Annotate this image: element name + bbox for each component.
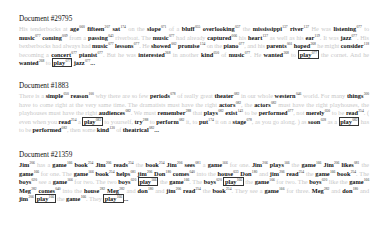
keyword: wanted268 xyxy=(264,51,289,58)
keyword-index: 282 xyxy=(100,187,105,191)
context-text: riverboat. The xyxy=(115,34,151,41)
context-text: His tenderbocks at xyxy=(19,25,68,32)
context-text: into the xyxy=(197,170,216,177)
keyword: western046 xyxy=(275,92,302,99)
keyword-index: 060 xyxy=(79,25,84,29)
keyword-index: 206 xyxy=(28,195,33,199)
keyword: perform082 xyxy=(156,118,184,125)
ellipsis: ... xyxy=(124,195,129,202)
keyword: periods078 xyxy=(150,92,176,99)
keyword: passing043 xyxy=(88,34,114,41)
keyword-index: 082 xyxy=(271,101,276,105)
keyword: jazz077 xyxy=(340,34,357,41)
keyword-index: 137 xyxy=(282,25,287,29)
context-text: as well as his xyxy=(270,34,304,41)
keyword: house033 xyxy=(218,170,239,177)
keyword: actors082 xyxy=(219,101,241,108)
context-text: of a xyxy=(169,25,179,32)
context-text: . He xyxy=(139,42,149,49)
document-title: Document #21359 xyxy=(19,151,369,160)
context-text: the xyxy=(361,161,369,168)
keyword: merely050 xyxy=(306,109,330,116)
keyword-index: 020 xyxy=(322,178,327,182)
context-text: he might xyxy=(317,42,339,49)
keyword: plays166 xyxy=(270,161,290,168)
context-text: to xyxy=(364,25,369,32)
keyword-index: 282 xyxy=(31,187,36,191)
keyword-index: 077 xyxy=(312,51,317,55)
highlighted-keyword: play077 xyxy=(298,50,318,59)
context-text: to xyxy=(150,118,155,125)
context-text: the xyxy=(243,25,251,32)
keyword-index: 166 xyxy=(330,170,335,174)
keyword: age060 xyxy=(70,25,85,32)
keyword-index: 078 xyxy=(170,92,175,96)
keyword-index: 288 xyxy=(143,118,148,122)
keyword: listening077 xyxy=(333,25,361,32)
keyword-index: 020 xyxy=(32,178,37,182)
keyword-index: 166 xyxy=(151,178,156,182)
keyword-index: 082 xyxy=(234,92,239,96)
context-text: his xyxy=(239,34,246,41)
keyword-index: 166 xyxy=(269,178,274,182)
keyword: game166 xyxy=(255,178,275,185)
keyword: read254 xyxy=(59,118,77,125)
context-text: the xyxy=(245,178,253,185)
keyword: captured006 xyxy=(207,34,237,41)
keyword-index: 037 xyxy=(235,25,240,29)
keyword-index: 082 xyxy=(218,109,223,113)
keyword: comes040 xyxy=(173,170,195,177)
keyword: music077 xyxy=(229,51,250,58)
highlighted-keyword: play166 xyxy=(138,177,158,186)
keyword: theater082 xyxy=(214,92,239,99)
context-text: it, to xyxy=(186,118,198,125)
keyword: helps081 xyxy=(116,170,136,177)
keyword-index: 077 xyxy=(169,34,174,38)
context-text: , then some xyxy=(67,126,95,133)
highlighted-keyword: play166 xyxy=(223,177,243,186)
keyword: slope071 xyxy=(147,25,166,32)
context-text: for one. The xyxy=(41,170,72,177)
keyword: kind130 xyxy=(97,126,115,133)
context-text: . They see a xyxy=(231,187,262,194)
keyword: showed002 xyxy=(151,42,177,49)
keyword: game166 xyxy=(52,161,72,168)
keyword-index: 040 xyxy=(55,187,60,191)
keyword: game166 xyxy=(74,170,94,177)
keyword: consider118 xyxy=(341,42,369,49)
keyword-index: 082 xyxy=(352,118,357,122)
keyword: book254 xyxy=(74,161,93,168)
context-text: He was xyxy=(311,25,331,32)
keyword-index: 282 xyxy=(324,187,329,191)
context-text: the xyxy=(306,170,314,177)
context-text: the xyxy=(136,161,144,168)
keyword: jim206 xyxy=(19,195,34,202)
keyword: game166 xyxy=(349,178,369,185)
keyword-index: 166 xyxy=(67,161,72,165)
context-text: see a xyxy=(39,178,51,185)
keyword-index: 046 xyxy=(296,92,301,96)
keyword: plays082 xyxy=(204,109,224,116)
context-text: for three. xyxy=(286,187,309,194)
keyword: overlooking037 xyxy=(203,25,241,32)
context-text: on the xyxy=(128,25,144,32)
keyword-index: 207 xyxy=(105,25,110,29)
keyword-index: 206 xyxy=(106,161,111,165)
context-text: for two. The two xyxy=(74,178,116,185)
keyword: put174 xyxy=(199,118,214,125)
keyword: simple050 xyxy=(46,92,69,99)
keyword-index: 006 xyxy=(232,34,237,38)
keyword-index: 166 xyxy=(222,161,227,165)
keyword-index: 071 xyxy=(161,25,166,29)
keyword-index: 050 xyxy=(325,109,330,113)
keyword: game166 xyxy=(169,178,189,185)
keyword-index: 166 xyxy=(316,161,321,165)
keyword-index: 050 xyxy=(63,92,68,96)
keyword-index: 206 xyxy=(262,161,267,165)
keyword-index: 002 xyxy=(171,42,176,46)
keyword: music077 xyxy=(92,42,113,49)
context-text: the xyxy=(203,187,211,194)
keyword-index: 206 xyxy=(29,161,34,165)
keyword: game166 xyxy=(315,170,335,177)
keyword-index: 166 xyxy=(364,178,369,182)
